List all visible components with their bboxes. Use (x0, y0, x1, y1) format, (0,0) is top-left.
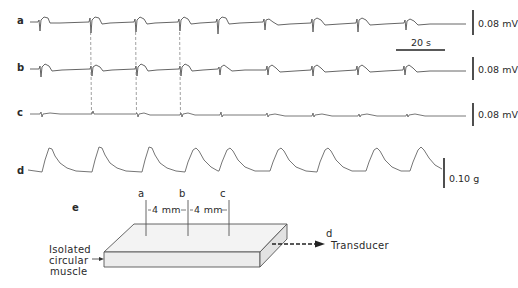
tissue-label-line-3: muscle (50, 267, 88, 277)
tissue-label-arrow (92, 257, 104, 261)
transducer-label: Transducer (331, 241, 389, 251)
scale-label-c: 0.08 mV (478, 110, 518, 120)
trace-d (28, 147, 442, 172)
tissue-label-line-1: Isolated (49, 245, 91, 255)
scale-label-b: 0.08 mV (478, 65, 518, 75)
spacing-label-ab: 4 mm (152, 205, 181, 215)
spacing-label-bc: 4 mm (194, 205, 223, 215)
trace-label-a: a (17, 16, 24, 26)
electrode-label-c: c (220, 189, 226, 199)
scale-label-d: 0.10 g (449, 174, 479, 184)
transducer-channel-label: d (326, 229, 333, 239)
muscle-block-diagram (104, 224, 287, 267)
trace-label-c: c (17, 108, 23, 118)
electrode-label-a: a (138, 189, 144, 199)
trace-label-b: b (17, 63, 24, 73)
trace-b (30, 64, 466, 77)
time-scale-label: 20 s (411, 38, 431, 48)
electrode-label-b: b (179, 189, 186, 199)
trace-a (30, 17, 466, 34)
panel-label-e: e (72, 203, 79, 213)
scale-label-a: 0.08 mV (478, 19, 518, 29)
tissue-label-line-2: circular (49, 256, 88, 266)
trace-c (30, 111, 466, 117)
trace-label-d: d (17, 166, 24, 176)
